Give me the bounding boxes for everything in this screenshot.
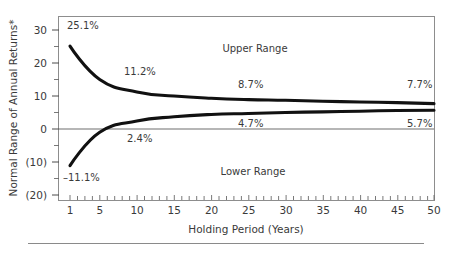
y-tick-label-neg10: (10) <box>25 156 47 168</box>
x-axis-title: Holding Period (Years) <box>188 223 303 235</box>
x-tick-label-20: 20 <box>205 204 218 216</box>
annotation-upper-year50: 7.7% <box>407 79 432 90</box>
annual-returns-range-chart: 30 20 10 0 (10) (20) Normal Range of Ann… <box>0 0 450 255</box>
x-tick-label-1: 1 <box>67 204 74 216</box>
y-axis-tick-labels: 30 20 10 0 (10) (20) <box>25 24 47 201</box>
x-tick-label-40: 40 <box>354 204 367 216</box>
x-tick-label-15: 15 <box>168 204 181 216</box>
y-tick-label-10: 10 <box>34 90 47 102</box>
y-axis-title: Normal Range of Annual Returns* <box>7 20 19 197</box>
annotation-upper-year30: 8.7% <box>238 79 263 90</box>
x-tick-label-50: 50 <box>427 204 440 216</box>
lower-range-region-label: Lower Range <box>221 166 286 177</box>
x-axis-minor-ticks <box>70 195 434 200</box>
y-tick-label-30: 30 <box>34 24 47 36</box>
annotation-upper-year1: 25.1% <box>67 20 99 31</box>
annotation-upper-year10: 11.2% <box>124 66 156 77</box>
chart-figure: 30 20 10 0 (10) (20) Normal Range of Ann… <box>0 0 450 255</box>
x-tick-label-45: 45 <box>391 204 404 216</box>
y-tick-label-0: 0 <box>40 123 47 135</box>
x-tick-label-35: 35 <box>317 204 330 216</box>
x-tick-label-10: 10 <box>130 204 143 216</box>
annotation-lower-year10: 2.4% <box>127 133 152 144</box>
annotation-lower-year50: 5.7% <box>407 118 432 129</box>
x-tick-label-25: 25 <box>242 204 255 216</box>
annotation-lower-year1: –11.1% <box>63 172 100 183</box>
annotation-lower-year25: 4.7% <box>238 118 263 129</box>
y-tick-label-neg20: (20) <box>25 189 47 201</box>
x-tick-label-30: 30 <box>279 204 292 216</box>
upper-range-region-label: Upper Range <box>222 43 287 54</box>
x-axis-tick-labels: 1 5 10 15 20 25 30 35 40 45 50 <box>67 204 441 216</box>
y-tick-label-20: 20 <box>34 57 47 69</box>
x-tick-label-5: 5 <box>96 204 103 216</box>
